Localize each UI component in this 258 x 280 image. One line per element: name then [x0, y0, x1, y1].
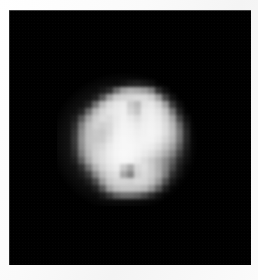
image-pixel — [155, 87, 162, 94]
image-pixel — [85, 136, 92, 143]
image-pixel — [92, 136, 99, 143]
image-pixel — [106, 143, 113, 150]
image-pixel — [99, 122, 106, 129]
image-pixel — [176, 129, 183, 136]
image-pixel — [162, 129, 169, 136]
image-pixel — [127, 101, 134, 108]
image-pixel — [155, 157, 162, 164]
image-pixel — [78, 150, 85, 157]
image-pixel — [148, 171, 155, 178]
image-pixel — [99, 129, 106, 136]
image-pixel — [183, 157, 190, 164]
image-pixel — [64, 164, 71, 171]
image-pixel — [92, 192, 99, 199]
image-pixel — [113, 80, 120, 87]
image-pixel — [176, 136, 183, 143]
image-pixel — [127, 115, 134, 122]
image-pixel — [99, 80, 106, 87]
image-pixel — [141, 171, 148, 178]
image-pixel — [155, 164, 162, 171]
image-pixel — [92, 115, 99, 122]
image-pixel — [106, 80, 113, 87]
image-pixel — [64, 94, 71, 101]
image-pixel — [64, 178, 71, 185]
image-pixel — [99, 178, 106, 185]
image-pixel — [113, 87, 120, 94]
image-pixel — [64, 122, 71, 129]
image-pixel — [162, 94, 169, 101]
image-pixel — [71, 80, 78, 87]
image-pixel — [148, 136, 155, 143]
image-pixel — [78, 129, 85, 136]
image-pixel — [162, 108, 169, 115]
image-pixel — [141, 185, 148, 192]
image-pixel — [176, 178, 183, 185]
image-pixel — [106, 164, 113, 171]
image-pixel — [78, 171, 85, 178]
image-pixel — [120, 150, 127, 157]
image-pixel — [176, 185, 183, 192]
image-pixel — [64, 87, 71, 94]
image-pixel — [120, 185, 127, 192]
image-pixel — [134, 115, 141, 122]
image-pixel — [64, 192, 71, 199]
image-pixel — [127, 185, 134, 192]
image-pixel — [71, 101, 78, 108]
image-pixel — [141, 94, 148, 101]
image-pixel — [148, 192, 155, 199]
image-pixel — [183, 115, 190, 122]
image-pixel — [78, 115, 85, 122]
image-pixel — [162, 171, 169, 178]
image-pixel — [120, 164, 127, 171]
image-pixel — [99, 164, 106, 171]
image-pixel — [176, 171, 183, 178]
image-pixel — [85, 150, 92, 157]
image-pixel — [78, 122, 85, 129]
image-pixel — [78, 136, 85, 143]
image-pixel — [155, 171, 162, 178]
image-pixel — [155, 94, 162, 101]
image-pixel — [176, 101, 183, 108]
image-pixel — [85, 164, 92, 171]
image-pixel — [78, 108, 85, 115]
image-pixel — [85, 80, 92, 87]
image-pixel — [183, 171, 190, 178]
plate-seam-top — [9, 10, 251, 11]
image-pixel — [183, 80, 190, 87]
image-pixel — [183, 150, 190, 157]
image-pixel — [92, 185, 99, 192]
image-pixel — [113, 164, 120, 171]
image-pixel — [134, 108, 141, 115]
image-pixel — [127, 171, 134, 178]
image-pixel — [71, 87, 78, 94]
image-pixel — [120, 171, 127, 178]
image-pixel — [176, 157, 183, 164]
image-pixel — [85, 108, 92, 115]
image-pixel — [113, 157, 120, 164]
image-pixel — [127, 87, 134, 94]
image-pixel — [106, 94, 113, 101]
image-pixel — [162, 157, 169, 164]
image-pixel — [120, 108, 127, 115]
image-pixel — [155, 192, 162, 199]
image-pixel — [134, 87, 141, 94]
image-pixel — [85, 178, 92, 185]
image-pixel — [106, 122, 113, 129]
image-pixel — [183, 178, 190, 185]
image-pixel — [127, 80, 134, 87]
image-pixel — [78, 87, 85, 94]
image-pixel — [92, 94, 99, 101]
image-pixel — [64, 185, 71, 192]
image-pixel — [127, 143, 134, 150]
image-pixel — [169, 185, 176, 192]
bright-object-raster — [64, 80, 190, 199]
image-pixel — [106, 150, 113, 157]
image-pixel — [183, 101, 190, 108]
image-pixel — [148, 157, 155, 164]
image-pixel — [169, 115, 176, 122]
image-pixel — [127, 192, 134, 199]
image-pixel — [85, 171, 92, 178]
image-pixel — [162, 150, 169, 157]
image-pixel — [113, 101, 120, 108]
image-pixel — [120, 94, 127, 101]
